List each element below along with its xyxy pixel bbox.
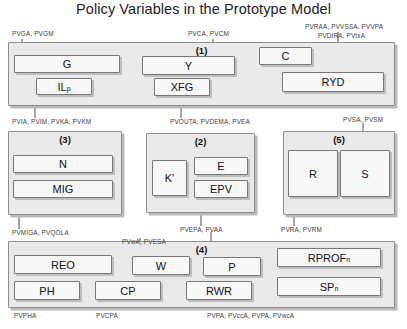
- page-title: Policy Variables in the Prototype Model: [0, 1, 407, 17]
- box-y[interactable]: Y: [142, 56, 235, 75]
- box-il[interactable]: ILp: [36, 78, 92, 95]
- box-p-label: P: [228, 261, 235, 273]
- box-kprime[interactable]: K': [152, 160, 187, 196]
- box-s-label: S: [361, 168, 368, 180]
- box-e[interactable]: E: [194, 157, 248, 175]
- box-s[interactable]: S: [340, 150, 390, 197]
- box-rwr-label: RWR: [206, 285, 232, 297]
- annotation-pvra: PVRA, PVRM: [281, 226, 322, 233]
- box-w-label: W: [156, 260, 166, 272]
- box-il-label: IL: [57, 81, 66, 93]
- box-g[interactable]: G: [14, 55, 120, 73]
- box-xfg-label: XFG: [171, 81, 194, 93]
- box-sp-label: SP: [320, 281, 335, 293]
- annotation-pvwa: PVwA, PVESA: [122, 238, 166, 245]
- box-xfg[interactable]: XFG: [154, 78, 210, 96]
- annotation-pvraa: PVRAA, PVVSSA, PVVPA: [305, 23, 383, 30]
- annotation-pvga: PVGA, PVGM: [12, 30, 54, 37]
- box-r[interactable]: R: [288, 150, 338, 197]
- box-e-label: E: [217, 160, 224, 172]
- box-p[interactable]: P: [203, 257, 261, 276]
- box-ryd[interactable]: RYD: [282, 72, 384, 92]
- group-3[interactable]: (3): [8, 131, 122, 215]
- box-epv[interactable]: EPV: [194, 180, 248, 198]
- annotation-pvdira: PVDIRA, PVtxA: [318, 32, 365, 39]
- box-reo-label: REO: [51, 259, 75, 271]
- annotation-pvpa: PVPA, PVccA, PVPA, PVwcA: [207, 312, 294, 319]
- box-ph-label: PH: [39, 285, 54, 297]
- box-w[interactable]: W: [132, 256, 190, 275]
- annotation-pvpha: PVPHA: [14, 312, 36, 319]
- annotation-pvcpa: PVCPA: [96, 312, 118, 319]
- box-reo[interactable]: REO: [14, 255, 112, 274]
- annotation-pvca: PVCA, PVCM: [188, 30, 229, 37]
- box-mig-label: MIG: [53, 183, 74, 195]
- annotation-pvmiga: PVMIGA, PVQOLA: [12, 229, 69, 236]
- box-ryd-label: RYD: [321, 76, 344, 88]
- annotation-pvsa: PVSA, PVSM: [343, 116, 383, 123]
- box-kprime-label: K': [165, 172, 174, 184]
- box-cp-label: CP: [120, 285, 135, 297]
- group-3-label: (3): [9, 134, 121, 145]
- annotation-pvia: PVIA, PVIM, PVKA, PVKM: [12, 118, 91, 125]
- diagram-canvas: Policy Variables in the Prototype Model: [0, 0, 407, 329]
- annotation-pvouta: PVOUTA, PVDEMA, PVEA: [170, 118, 250, 125]
- box-r-label: R: [309, 168, 317, 180]
- box-y-label: Y: [185, 60, 192, 72]
- box-rprof[interactable]: RPROFn: [277, 248, 381, 267]
- annotation-pvepa: PVEPA, PVAA: [180, 226, 223, 233]
- group-2-label: (2): [147, 136, 254, 147]
- box-rwr[interactable]: RWR: [186, 281, 252, 300]
- box-mig[interactable]: MIG: [13, 180, 113, 198]
- box-c-label: C: [282, 50, 290, 62]
- box-ph[interactable]: PH: [14, 281, 80, 300]
- box-cp[interactable]: CP: [95, 281, 161, 300]
- box-epv-label: EPV: [210, 183, 232, 195]
- box-rprof-label: RPROF: [308, 252, 347, 264]
- box-n[interactable]: N: [13, 155, 113, 173]
- box-c[interactable]: C: [259, 47, 312, 65]
- group-5-label: (5): [284, 134, 394, 145]
- box-n-label: N: [59, 158, 67, 170]
- box-sp[interactable]: SPn: [277, 277, 381, 296]
- box-g-label: G: [63, 58, 72, 70]
